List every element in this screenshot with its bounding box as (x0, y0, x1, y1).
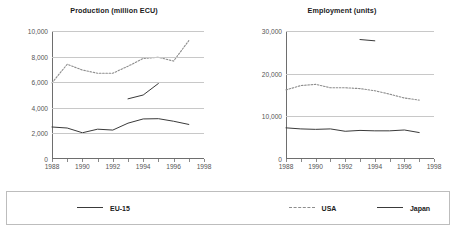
x-axis-tick-label: 1996 (166, 163, 181, 170)
legend-item-usa[interactable]: USA (267, 205, 358, 212)
x-axis-tick-label: 1998 (197, 163, 212, 170)
y-axis-tick-label: 6,000 (31, 79, 48, 86)
x-axis-tick (330, 159, 331, 162)
x-axis-tick-label: 1990 (308, 163, 323, 170)
y-axis-tick-label: 0 (278, 156, 282, 163)
gridline (52, 57, 204, 58)
legend-label: USA (322, 205, 337, 212)
series-line-japan (360, 40, 375, 41)
x-axis-tick-label: 1992 (105, 163, 120, 170)
x-axis-tick (52, 159, 53, 162)
y-axis-tick-label: 4,000 (31, 104, 48, 111)
legend-label: Japan (410, 205, 430, 212)
series-line-japan (128, 83, 158, 98)
x-axis-tick-label: 1998 (427, 163, 442, 170)
gridline (52, 133, 204, 134)
x-axis-tick (67, 159, 68, 162)
gridline (52, 108, 204, 109)
x-axis-tick (98, 159, 99, 162)
legend-item-japan[interactable]: Japan (358, 205, 449, 212)
legend-label: EU-15 (110, 205, 130, 212)
x-axis-tick (419, 159, 420, 162)
x-axis-tick-label: 1992 (338, 163, 353, 170)
gridline (52, 82, 204, 83)
chart-title-employment: Employment (units) (228, 6, 456, 15)
x-axis-tick-label: 1996 (397, 163, 412, 170)
y-axis-tick-label: 2,000 (31, 130, 48, 137)
x-axis-tick (404, 159, 405, 162)
legend-item-eu-15[interactable]: EU-15 (7, 205, 267, 212)
x-axis-tick (345, 159, 346, 162)
x-axis-tick-label: 1994 (367, 163, 382, 170)
series-lines-production (52, 31, 204, 159)
x-axis-tick (301, 159, 302, 162)
x-axis-tick (128, 159, 129, 162)
x-axis-tick-label: 1990 (75, 163, 90, 170)
gridline (52, 31, 204, 32)
x-axis-tick (204, 159, 205, 162)
x-axis-tick (375, 159, 376, 162)
gridline (286, 31, 434, 32)
x-axis-tick (82, 159, 83, 162)
x-axis-tick-label: 1988 (279, 163, 294, 170)
x-axis-tick (113, 159, 114, 162)
x-axis-tick-label: 1994 (136, 163, 151, 170)
chart-title-production: Production (million ECU) (0, 6, 228, 15)
charts-container: Production (million ECU) 02,0004,0006,00… (0, 0, 456, 186)
plot-area-employment: 010,00020,00030,000198819901992199419961… (286, 31, 434, 159)
chart-legend: EU-15USAJapan (6, 191, 450, 225)
series-line-usa (52, 41, 189, 83)
y-axis-tick-label: 20,000 (262, 70, 282, 77)
series-line-eu-15 (286, 128, 419, 133)
x-axis-tick (174, 159, 175, 162)
y-axis-tick-label: 30,000 (262, 28, 282, 35)
series-line-eu-15 (52, 119, 189, 133)
x-axis-tick-label: 1988 (45, 163, 60, 170)
x-axis-tick (434, 159, 435, 162)
series-lines-employment (286, 31, 434, 159)
y-axis-tick-label: 10,000 (28, 28, 48, 35)
gridline (286, 116, 434, 117)
series-line-usa (286, 84, 419, 100)
x-axis-tick (316, 159, 317, 162)
gridline (286, 74, 434, 75)
y-axis-tick-label: 8,000 (31, 53, 48, 60)
y-axis-tick-label: 0 (44, 156, 48, 163)
x-axis-tick (286, 159, 287, 162)
x-axis-tick (158, 159, 159, 162)
chart-panel-production: Production (million ECU) 02,0004,0006,00… (0, 0, 228, 186)
plot-area-production: 02,0004,0006,0008,00010,0001988199019921… (52, 31, 204, 159)
x-axis-tick (360, 159, 361, 162)
x-axis-tick (189, 159, 190, 162)
x-axis-tick (390, 159, 391, 162)
chart-panel-employment: Employment (units) 010,00020,00030,00019… (228, 0, 456, 186)
x-axis-tick (143, 159, 144, 162)
y-axis-tick-label: 10,000 (262, 113, 282, 120)
